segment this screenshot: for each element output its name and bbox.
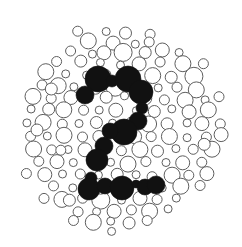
- plate-dot-142: [75, 169, 85, 179]
- plate-dot-160: [195, 181, 205, 191]
- plate-dot-74: [56, 102, 72, 118]
- plate-dot-108: [161, 129, 177, 145]
- plate-dot-17: [88, 50, 96, 58]
- plate-dot-152: [49, 181, 59, 191]
- plate-dot-41: [145, 68, 161, 84]
- plate-dot-168: [152, 195, 162, 205]
- plate-dot-96: [195, 117, 209, 131]
- plate-dot-76: [95, 106, 103, 114]
- numeral-dot-3: [76, 86, 94, 104]
- plate-dot-21: [155, 43, 169, 57]
- plate-dot-6: [120, 27, 132, 39]
- plate-dot-132: [120, 156, 136, 172]
- plate-dot-53: [154, 84, 162, 92]
- plate-dot-129: [69, 159, 77, 167]
- plate-dot-42: [165, 71, 177, 83]
- plate-dot-77: [109, 103, 123, 117]
- plate-dot-72: [27, 105, 35, 113]
- plate-dot-54: [172, 82, 182, 92]
- plate-dot-148: [184, 170, 194, 180]
- plate-dot-12: [131, 40, 139, 48]
- plate-dot-121: [152, 145, 164, 157]
- numeral-dot-8: [102, 123, 118, 139]
- plate-dot-89: [75, 120, 83, 128]
- plate-dot-5: [102, 28, 110, 36]
- plate-dot-169: [172, 194, 180, 202]
- plate-dot-176: [126, 205, 136, 215]
- plate-dot-197: [31, 124, 43, 136]
- plate-dot-153: [69, 184, 77, 192]
- plate-dot-19: [114, 43, 132, 61]
- plate-dot-73: [43, 103, 55, 115]
- plate-dot-36: [38, 64, 54, 80]
- plate-dot-199: [63, 194, 75, 206]
- plate-dot-102: [56, 127, 72, 143]
- plate-dot-37: [62, 70, 70, 78]
- ishihara-plate-svg: Monochrome Ishihara-style test plate com…: [0, 0, 242, 247]
- plate-dot-10: [80, 33, 96, 49]
- plate-dot-115: [47, 145, 57, 155]
- plate-dot-120: [132, 142, 148, 158]
- numeral-dot-14: [110, 176, 134, 200]
- plate-dot-80: [168, 105, 176, 113]
- plate-dot-63: [100, 91, 112, 103]
- plate-dot-16: [66, 46, 76, 56]
- plate-dot-136: [197, 157, 207, 167]
- plate-dot-69: [214, 92, 224, 102]
- plate-dot-90: [90, 117, 102, 129]
- plate-dot-185: [142, 216, 152, 226]
- numeral-dot-10: [86, 149, 108, 171]
- plate-dot-182: [85, 214, 101, 230]
- plate-dot-133: [141, 157, 151, 167]
- plate-dot-111: [214, 128, 228, 142]
- plate-dot-4: [73, 26, 83, 36]
- plate-dot-86: [23, 119, 31, 127]
- plate-dot-198: [198, 138, 210, 150]
- plate-dot-107: [146, 132, 156, 142]
- plate-dot-196: [45, 83, 57, 95]
- plate-dot-122: [172, 145, 180, 153]
- plate-dot-201: [182, 105, 196, 119]
- numeral-dot-4: [129, 80, 153, 104]
- plate-dot-139: [21, 169, 31, 179]
- plate-dot-178: [164, 205, 172, 213]
- plate-dot-183: [107, 217, 115, 225]
- plate-dot-59: [25, 88, 41, 104]
- plate-dot-175: [107, 204, 121, 218]
- plate-dot-123: [188, 144, 198, 154]
- plate-dot-49: [70, 83, 78, 91]
- plate-dot-162: [39, 193, 49, 203]
- plate-dot-184: [123, 217, 135, 229]
- plate-dot-82: [200, 102, 216, 118]
- plate-dot-101: [43, 132, 51, 140]
- plate-dot-28: [96, 59, 104, 67]
- plate-dot-64: [121, 92, 129, 100]
- plate-dot-18: [97, 46, 111, 60]
- plate-dot-94: [161, 118, 173, 130]
- plate-dot-141: [59, 170, 67, 178]
- plate-dot-135: [176, 156, 190, 170]
- plate-dot-95: [183, 119, 191, 127]
- plate-dot-114: [26, 141, 42, 157]
- plate-dot-134: [162, 159, 170, 167]
- numeral-dot-12: [78, 178, 100, 200]
- plate-dot-127: [34, 156, 44, 166]
- plate-dot-103: [78, 132, 88, 142]
- plate-dot-140: [38, 168, 52, 182]
- plate-dot-159: [173, 178, 189, 194]
- plate-dot-33: [198, 59, 208, 69]
- plate-dot-128: [50, 155, 64, 169]
- plate-dot-66: [159, 95, 169, 105]
- plate-dot-119: [116, 146, 126, 156]
- plate-dot-109: [183, 134, 191, 142]
- plate-dot-26: [52, 57, 62, 67]
- plate-dot-149: [200, 167, 214, 181]
- plate-dot-75: [79, 105, 89, 115]
- numeral-dot-17: [147, 176, 165, 194]
- plate-dot-181: [69, 216, 79, 226]
- plate-dot-145: [132, 171, 140, 179]
- ishihara-plate-figure: Monochrome Ishihara-style test plate com…: [0, 0, 242, 247]
- plate-dot-31: [155, 57, 165, 67]
- plate-dot-202: [56, 145, 66, 155]
- plate-dot-200: [144, 37, 154, 47]
